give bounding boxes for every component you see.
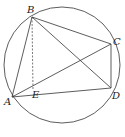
label-c: C xyxy=(113,36,121,47)
segment-bc xyxy=(32,17,111,44)
label-a: A xyxy=(3,96,11,107)
label-b: B xyxy=(26,4,34,15)
segment-be-dashed xyxy=(32,17,33,90)
label-d: D xyxy=(111,90,120,101)
segment-bd xyxy=(32,17,111,88)
circumcircle xyxy=(4,7,120,123)
geometry-diagram: B C D A E xyxy=(0,0,125,137)
segment-ab xyxy=(12,17,32,97)
label-e: E xyxy=(31,89,40,100)
